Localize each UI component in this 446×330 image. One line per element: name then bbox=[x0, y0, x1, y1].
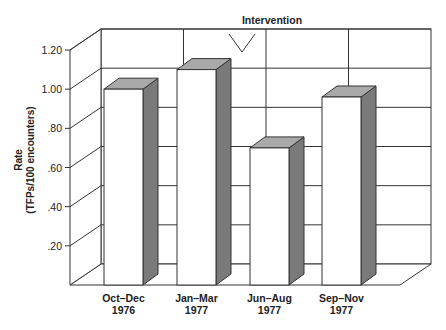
y-tick-label: .80 bbox=[47, 122, 62, 134]
bar bbox=[177, 59, 231, 285]
y-tick-label: 1.20 bbox=[42, 44, 63, 56]
x-tick-label: Jun–Aug bbox=[247, 292, 292, 304]
bar bbox=[322, 86, 376, 285]
bar-chart-3d: .20.40.60.801.001.20 Oct–Dec1976Jan–Mar1… bbox=[0, 0, 446, 330]
bar bbox=[104, 78, 158, 285]
x-tick-label-year: 1977 bbox=[258, 304, 282, 316]
y-axis-title-line2: (TFPs/100 encounters) bbox=[25, 106, 36, 213]
x-tick-label: Oct–Dec bbox=[102, 292, 145, 304]
x-tick-label-year: 1977 bbox=[185, 304, 209, 316]
y-axis: .20.40.60.801.001.20 bbox=[42, 44, 70, 252]
y-tick-label: .40 bbox=[47, 201, 62, 213]
bar bbox=[250, 137, 304, 285]
y-tick-label: .20 bbox=[47, 240, 62, 252]
x-axis-labels: Oct–Dec1976Jan–Mar1977Jun–Aug1977Sep–Nov… bbox=[102, 292, 364, 316]
x-tick-label: Sep–Nov bbox=[319, 292, 364, 304]
x-tick-label-year: 1976 bbox=[112, 304, 136, 316]
y-tick-label: .60 bbox=[47, 162, 62, 174]
y-axis-title-line1: Rate bbox=[13, 149, 24, 171]
y-axis-title: Rate (TFPs/100 encounters) bbox=[13, 106, 36, 213]
x-tick-label: Jan–Mar bbox=[175, 292, 218, 304]
intervention-label: Intervention bbox=[242, 14, 302, 26]
x-tick-label-year: 1977 bbox=[330, 304, 354, 316]
y-tick-label: 1.00 bbox=[42, 83, 63, 95]
